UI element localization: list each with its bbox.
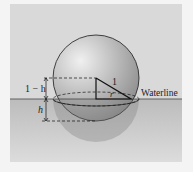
- label-h: h: [38, 104, 43, 115]
- label-hypotenuse: 1: [112, 76, 117, 87]
- label-one-minus-h: 1 − h: [25, 83, 46, 94]
- label-waterline: Waterline: [141, 88, 178, 98]
- sphere-diagram: 1 − h h 1 r Waterline: [0, 0, 193, 172]
- label-r: r: [110, 89, 114, 99]
